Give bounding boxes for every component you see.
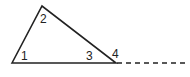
triangle-figure bbox=[0, 0, 190, 77]
triangle-diagram: 1 2 3 4 bbox=[0, 0, 190, 77]
angle-label-3: 3 bbox=[86, 50, 93, 62]
angle-label-2: 2 bbox=[40, 13, 47, 25]
angle-label-1: 1 bbox=[21, 50, 28, 62]
angle-label-4: 4 bbox=[112, 48, 119, 60]
